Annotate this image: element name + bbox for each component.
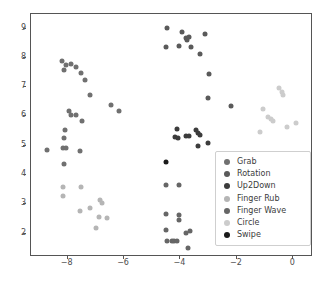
data-point [206, 140, 211, 145]
legend-label: Finger Wave [237, 207, 286, 215]
data-point [198, 133, 203, 138]
data-point [62, 162, 67, 167]
data-point [87, 92, 92, 97]
data-point [163, 44, 168, 49]
x-axis-tick-labels: −8−6−4−20 [30, 259, 312, 273]
y-tick-mark [23, 86, 26, 87]
data-point [163, 211, 168, 216]
data-point [260, 107, 265, 112]
data-point [104, 215, 109, 220]
data-point [189, 44, 194, 49]
legend-marker-icon [224, 232, 230, 238]
data-point [116, 108, 121, 113]
legend-marker-icon [224, 196, 230, 202]
data-point [79, 119, 84, 124]
legend[interactable]: GrabRotationUp2DownFinger RubFinger Wave… [215, 151, 311, 246]
data-point [94, 226, 99, 231]
x-tick-mark [292, 256, 293, 259]
legend-item[interactable]: Swipe [220, 229, 305, 241]
legend-label: Swipe [237, 231, 261, 239]
data-point [270, 118, 275, 123]
data-point [207, 71, 212, 76]
legend-item[interactable]: Rotation [220, 168, 305, 180]
x-tick-label: −6 [117, 259, 129, 267]
legend-marker-icon [224, 220, 230, 226]
legend-label: Grab [237, 158, 256, 166]
data-point [188, 229, 193, 234]
data-point [163, 182, 168, 187]
legend-item[interactable]: Circle [220, 217, 305, 229]
data-point [203, 31, 208, 36]
y-tick-mark [23, 115, 26, 116]
legend-marker-icon [224, 171, 230, 177]
legend-item[interactable]: Finger Rub [220, 193, 305, 205]
y-tick-mark [23, 174, 26, 175]
data-point [177, 43, 182, 48]
data-point [206, 96, 211, 101]
data-point [198, 52, 203, 57]
data-point [164, 160, 169, 165]
data-point [82, 77, 87, 82]
data-point [87, 205, 92, 210]
legend-label: Up2Down [237, 182, 276, 190]
data-point [228, 103, 233, 108]
data-point [99, 201, 104, 206]
y-tick-mark [23, 203, 26, 204]
data-point [285, 124, 290, 129]
legend-item[interactable]: Up2Down [220, 180, 305, 192]
y-tick-mark [23, 145, 26, 146]
data-point [175, 127, 180, 132]
data-point [175, 135, 180, 140]
legend-label: Circle [237, 219, 259, 227]
data-point [177, 218, 182, 223]
data-point [61, 193, 66, 198]
data-point [177, 182, 182, 187]
data-point [60, 184, 65, 189]
x-tick-label: −2 [230, 259, 242, 267]
legend-label: Rotation [237, 170, 270, 178]
legend-item[interactable]: Grab [220, 156, 305, 168]
data-point [62, 127, 67, 132]
y-axis-tick-labels: 23456789 [0, 13, 26, 256]
data-point [74, 64, 79, 69]
x-tick-mark [236, 256, 237, 259]
data-point [164, 25, 169, 30]
data-point [257, 129, 262, 134]
data-point [187, 35, 192, 40]
legend-marker-icon [224, 159, 230, 165]
data-point [45, 147, 50, 152]
data-point [186, 246, 191, 251]
data-point [62, 68, 67, 73]
data-point [179, 29, 184, 34]
data-point [79, 71, 84, 76]
data-point [96, 215, 101, 220]
data-point [64, 146, 69, 151]
x-tick-mark [179, 256, 180, 259]
data-point [77, 148, 82, 153]
x-tick-label: 0 [290, 259, 295, 267]
scatter-plot-figure: 23456789 −8−6−4−20 GrabRotationUp2DownFi… [0, 0, 333, 285]
y-tick-mark [23, 233, 26, 234]
legend-marker-icon [224, 208, 230, 214]
legend-marker-icon [224, 183, 230, 189]
data-point [77, 208, 82, 213]
data-point [73, 113, 78, 118]
data-point [109, 103, 114, 108]
data-point [293, 120, 298, 125]
x-tick-label: −8 [61, 259, 73, 267]
y-tick-mark [23, 28, 26, 29]
legend-item[interactable]: Finger Wave [220, 205, 305, 217]
x-tick-mark [123, 256, 124, 259]
x-tick-mark [67, 256, 68, 259]
x-tick-label: −4 [174, 259, 186, 267]
y-tick-mark [23, 57, 26, 58]
legend-label: Finger Rub [237, 195, 280, 203]
data-point [280, 92, 285, 97]
data-point [62, 136, 67, 141]
data-point [195, 143, 200, 148]
data-point [175, 238, 180, 243]
data-point [186, 134, 191, 139]
data-point [79, 185, 84, 190]
data-point [164, 228, 169, 233]
